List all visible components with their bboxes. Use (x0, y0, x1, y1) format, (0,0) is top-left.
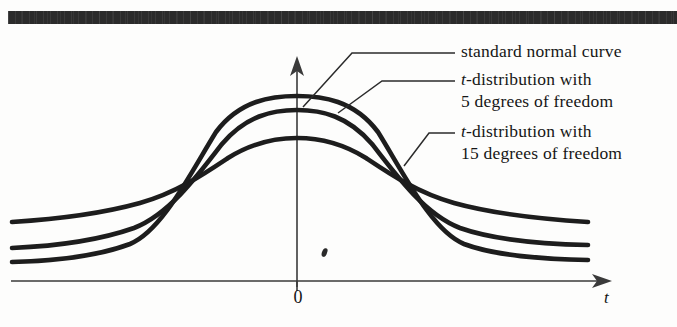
x-axis (11, 274, 612, 288)
label-standard-normal-text: standard normal curve (461, 41, 622, 61)
t-distribution-figure: standard normal curve t-distribution wit… (0, 0, 677, 327)
label-t15-line1: t-distribution with (461, 120, 622, 142)
label-t-distribution-5df: t-distribution with 5 degrees of freedom (461, 68, 613, 112)
label-standard-normal-curve: standard normal curve (461, 40, 622, 62)
label-t15-line2: 15 degrees of freedom (461, 142, 622, 164)
x-axis-label: t (604, 288, 609, 308)
leader-line-t15 (404, 133, 455, 166)
y-axis (290, 56, 304, 287)
label-t5-line1: t-distribution with (461, 68, 613, 90)
x-axis-tick-label-zero: 0 (288, 287, 308, 308)
label-t15-line1-text: -distribution with (466, 121, 592, 141)
label-t5-line1-text: -distribution with (466, 69, 592, 89)
label-t5-line2: 5 degrees of freedom (461, 90, 613, 112)
label-t-distribution-15df: t-distribution with 15 degrees of freedo… (461, 120, 622, 164)
